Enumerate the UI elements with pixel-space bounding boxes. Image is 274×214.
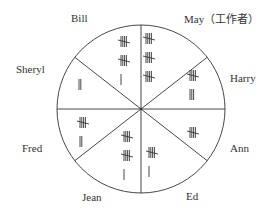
tally-mark-group xyxy=(143,52,155,63)
tally-mark-group xyxy=(190,89,194,100)
label-harry: Harry xyxy=(230,72,256,84)
tally-mark-group xyxy=(77,117,89,128)
label-bill: Bill xyxy=(71,12,88,24)
label-fred: Fred xyxy=(22,142,42,154)
tally-mark-group xyxy=(187,127,199,138)
label-ann: Ann xyxy=(230,142,249,154)
tally-mark-group xyxy=(146,147,158,158)
label-may: May（工作者） xyxy=(184,13,259,25)
tally-mark-group xyxy=(118,55,130,66)
tally-mark-group xyxy=(143,71,155,82)
tally-mark-group xyxy=(118,36,130,47)
tally-mark-group xyxy=(79,79,81,90)
label-sheryl: Sheryl xyxy=(16,63,45,75)
tally-mark-group xyxy=(80,136,82,147)
tally-mark-group xyxy=(121,150,133,161)
label-jean: Jean xyxy=(82,191,102,203)
tally-wheel-diagram: Bill May（工作者） Harry Ann Ed Jean Fred She… xyxy=(0,0,274,214)
tally-mark-group xyxy=(121,131,133,142)
label-ed: Ed xyxy=(186,190,198,202)
tally-mark-group xyxy=(143,33,155,44)
wheel-graphic xyxy=(0,0,274,214)
